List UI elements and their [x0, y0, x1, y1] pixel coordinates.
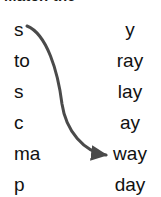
right-word-column: y ray lay ay way day [99, 14, 161, 197]
list-item[interactable]: ay [99, 107, 161, 138]
list-item[interactable]: s [0, 76, 62, 107]
list-item[interactable]: to [0, 45, 62, 76]
header-strip: Match the [0, 0, 161, 7]
list-item[interactable]: day [99, 169, 161, 197]
list-item[interactable]: p [0, 169, 62, 197]
page-title: Match the [4, 0, 76, 4]
list-item[interactable]: lay [99, 76, 161, 107]
list-item[interactable]: y [99, 14, 161, 45]
list-item[interactable]: ray [99, 45, 161, 76]
left-word-column: s to s c ma p [0, 14, 62, 197]
list-item[interactable]: c [0, 107, 62, 138]
list-item[interactable]: ma [0, 138, 62, 169]
list-item[interactable]: way [99, 138, 161, 169]
list-item[interactable]: s [0, 14, 62, 45]
match-the-words-exercise: Match the s to s c ma p y ray lay ay way… [0, 0, 161, 197]
